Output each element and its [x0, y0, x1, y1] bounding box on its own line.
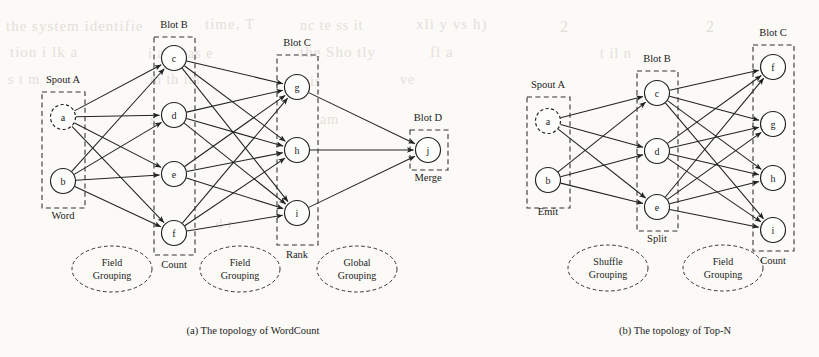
grouping-ellipse-line: Field: [230, 257, 251, 268]
node-label-h: h: [295, 145, 300, 156]
topology-diagram-canvas: abcdefghijabcdefghi FieldGroupingFieldGr…: [0, 0, 819, 357]
edge-a-to-e: [558, 129, 645, 198]
edge-d-to-g: [187, 90, 283, 112]
node-label-c: c: [655, 88, 660, 99]
group-title-blot-c: Blot C: [283, 37, 311, 48]
edge-e-to-f: [665, 78, 763, 197]
grouping-ellipse: [568, 245, 648, 291]
edge-b-to-d: [74, 122, 161, 174]
edge-b-to-c: [558, 102, 646, 172]
group-subtitle-blot-b: Split: [647, 233, 667, 244]
group-subtitle-blot-b: Count: [161, 259, 187, 270]
edge-e-to-i: [670, 210, 759, 228]
edge-f-to-i: [187, 215, 283, 231]
edge-a-to-f: [72, 126, 164, 222]
node-label-b: b: [61, 176, 66, 187]
grouping-ellipse: [683, 245, 763, 291]
figure-caption-topn: (b) The topology of Top-N: [619, 325, 731, 337]
group-subtitle-blot-c: Count: [760, 255, 786, 266]
node-label-j: j: [426, 145, 430, 156]
edge-e-to-h: [670, 182, 759, 204]
edge-e-to-g: [185, 95, 286, 166]
node-label-i: i: [296, 208, 299, 219]
grouping-ellipse-line: Grouping: [338, 270, 376, 281]
node-label-i: i: [772, 225, 775, 236]
grouping-ellipse: [72, 246, 152, 292]
grouping-ellipse: [317, 246, 397, 292]
group-subtitle-blot-c: Rank: [286, 249, 309, 260]
node-label-d: d: [655, 146, 660, 157]
edge-a-to-d: [76, 115, 160, 117]
group-title-blot-c: Blot C: [759, 27, 787, 38]
grouping-ellipse: [200, 246, 280, 292]
node-label-b: b: [546, 175, 551, 186]
grouping-ellipse-line: Global: [343, 257, 370, 268]
edge-e-to-g: [668, 132, 762, 199]
group-title-blot-b: Blot B: [643, 53, 671, 64]
node-label-g: g: [295, 82, 300, 93]
grouping-ellipse-line: Shuffle: [593, 256, 623, 267]
edge-g-to-j: [309, 93, 415, 144]
edge-b-to-c: [72, 69, 165, 172]
edge-a-to-d: [561, 124, 643, 147]
grouping-ellipse-line: Grouping: [221, 270, 259, 281]
edge-e-to-i: [186, 178, 283, 209]
edge-d-to-h: [187, 119, 284, 146]
edge-i-to-j: [309, 156, 415, 207]
node-label-e: e: [655, 202, 660, 213]
figure-root: the system identifietime, Tnc te ss itxl…: [0, 0, 819, 357]
edge-b-to-d: [561, 155, 643, 177]
edge-c-to-h: [667, 101, 761, 170]
edge-d-to-f: [668, 76, 762, 144]
group-subtitle-spout-a: Word: [51, 210, 75, 221]
nodes-layer: abcdefghijabcdefghi: [51, 46, 786, 246]
group-title-blot-b: Blot B: [160, 19, 188, 30]
group-subtitle-spout-a: Emit: [538, 206, 558, 217]
group-title-spout-a: Spout A: [531, 79, 566, 90]
edge-c-to-g: [187, 61, 283, 84]
grouping-ellipse-line: Grouping: [589, 269, 627, 280]
grouping-ellipse-line: Grouping: [93, 270, 131, 281]
node-label-d: d: [172, 110, 177, 121]
node-label-a: a: [61, 112, 66, 123]
node-label-g: g: [771, 119, 776, 130]
group-subtitle-blot-d: Merge: [414, 172, 442, 183]
figure-caption-wordcount: (a) The topology of WordCount: [187, 325, 320, 337]
grouping-ellipse-line: Field: [713, 256, 734, 267]
edge-f-to-g: [182, 98, 287, 223]
node-label-e: e: [172, 169, 177, 180]
grouping-ellipse-line: Field: [102, 257, 123, 268]
node-label-a: a: [546, 116, 551, 127]
group-title-spout-a: Spout A: [46, 74, 81, 85]
grouping-ellipse-line: Grouping: [704, 269, 742, 280]
node-label-c: c: [172, 53, 177, 64]
edge-c-to-h: [184, 66, 285, 142]
edge-b-to-f: [75, 187, 161, 227]
group-title-blot-d: Blot D: [414, 112, 443, 123]
edge-d-to-h: [670, 154, 759, 175]
edge-a-to-c: [74, 65, 161, 111]
node-label-h: h: [771, 173, 776, 184]
edge-a-to-e: [75, 123, 162, 167]
edge-b-to-e: [76, 175, 160, 180]
